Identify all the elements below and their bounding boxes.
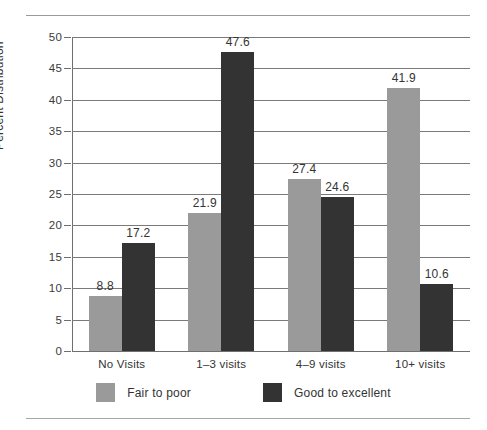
y-axis-tick: [64, 163, 71, 164]
y-axis-tick-label: 30: [32, 157, 62, 169]
bar-value-label: 10.6: [425, 267, 449, 281]
legend-label: Fair to poor: [127, 386, 191, 400]
y-axis-tick: [64, 225, 71, 226]
legend-label: Good to excellent: [294, 386, 391, 400]
y-axis-title: Percent Distribution: [0, 41, 6, 150]
chart-figure: Percent Distribution 0510152025303540455…: [0, 0, 487, 430]
bar[interactable]: 47.6: [221, 52, 254, 351]
y-axis-tick-label: 40: [32, 94, 62, 106]
plot-area: 8.817.221.947.627.424.641.910.6: [72, 37, 470, 351]
legend-item[interactable]: Fair to poor: [96, 383, 191, 402]
y-axis-tick: [64, 288, 71, 289]
y-axis-tick: [64, 100, 71, 101]
bottom-divider-rule: [26, 418, 470, 419]
legend-swatch: [263, 383, 282, 402]
y-axis-tick-label: 0: [32, 345, 62, 357]
bar-value-label: 41.9: [392, 71, 416, 85]
bar-group: 8.817.2: [89, 37, 155, 351]
bar-value-label: 27.4: [292, 162, 316, 176]
y-axis-tick-label: 25: [32, 188, 62, 200]
bar-value-label: 17.2: [126, 226, 150, 240]
y-axis-tick: [64, 131, 71, 132]
y-axis-tick: [64, 351, 71, 352]
bar-group: 41.910.6: [387, 37, 453, 351]
x-axis-spine: [72, 351, 470, 352]
bar-value-label: 8.8: [97, 279, 114, 293]
y-axis-tick: [64, 37, 71, 38]
bar-value-label: 47.6: [226, 35, 250, 49]
y-axis-tick-label: 35: [32, 125, 62, 137]
bar-group: 21.947.6: [188, 37, 254, 351]
y-axis-tick: [64, 257, 71, 258]
y-axis-tick: [64, 68, 71, 69]
y-axis-tick-label: 15: [32, 251, 62, 263]
bar[interactable]: 10.6: [420, 284, 453, 351]
legend-item[interactable]: Good to excellent: [263, 383, 391, 402]
top-divider-rule: [26, 15, 470, 16]
y-axis-tick-label: 45: [32, 62, 62, 74]
x-axis-tick-label: 10+ visits: [360, 358, 480, 370]
y-axis-tick: [64, 194, 71, 195]
bar[interactable]: 21.9: [188, 213, 221, 351]
y-axis-tick-labels: 05101520253035404550: [30, 37, 62, 351]
bar-value-label: 21.9: [193, 196, 217, 210]
bar-value-label: 24.6: [325, 180, 349, 194]
bar[interactable]: 27.4: [288, 179, 321, 351]
bar[interactable]: 41.9: [387, 88, 420, 351]
legend-swatch: [96, 383, 115, 402]
bar[interactable]: 8.8: [89, 296, 122, 351]
bar[interactable]: 24.6: [321, 197, 354, 351]
y-axis-tick-label: 10: [32, 282, 62, 294]
bar[interactable]: 17.2: [122, 243, 155, 351]
y-axis-tick-label: 5: [32, 314, 62, 326]
bar-group: 27.424.6: [288, 37, 354, 351]
y-axis-tick-label: 20: [32, 219, 62, 231]
chart-legend: Fair to poorGood to excellent: [0, 383, 487, 402]
y-axis-tick: [64, 320, 71, 321]
y-axis-tick-label: 50: [32, 31, 62, 43]
